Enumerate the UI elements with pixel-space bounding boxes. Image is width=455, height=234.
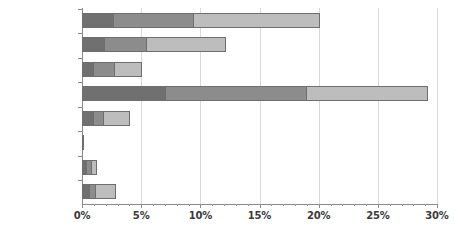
bar-segment-plants-3 (95, 184, 116, 199)
x-tick-minor (248, 204, 249, 206)
y-tick (78, 58, 82, 59)
bar-segment-molluscs-3 (91, 160, 98, 175)
bar-mammals (82, 13, 320, 28)
y-tick (78, 82, 82, 83)
x-tick-minor (118, 204, 119, 206)
x-tick-major (82, 204, 83, 208)
bar-molluscs (82, 160, 97, 175)
stacked-bar-chart: 0%5%10%15%20%25%30% MammalsBirdsReptiles… (0, 0, 455, 234)
bar-segment-mammals-2 (113, 13, 193, 28)
bar-reptiles (82, 62, 142, 77)
x-tick-minor (366, 204, 367, 206)
x-tick-minor (224, 204, 225, 206)
bar-segment-birds-2 (104, 37, 145, 52)
x-tick-major (141, 204, 142, 208)
x-tick-label: 10% (189, 210, 212, 221)
x-tick-label: 20% (307, 210, 330, 221)
x-tick-minor (295, 204, 296, 206)
x-tick-minor (236, 204, 237, 206)
bar-amphibians (82, 86, 428, 101)
y-tick (78, 107, 82, 108)
x-tick-minor (354, 204, 355, 206)
x-tick-minor (212, 204, 213, 206)
x-tick-minor (271, 204, 272, 206)
x-tick-label: 0% (74, 210, 91, 221)
y-tick (78, 33, 82, 34)
bar-segment-reptiles-3 (114, 62, 142, 77)
bar-segment-amphibians-2 (165, 86, 306, 101)
y-tick (78, 9, 82, 10)
bar-birds (82, 37, 226, 52)
x-tick-label: 25% (366, 210, 389, 221)
x-tick-minor (189, 204, 190, 206)
x-tick-minor (106, 204, 107, 206)
bar-segment-fishes-2 (93, 111, 104, 126)
x-tick-label: 15% (248, 210, 271, 221)
bar-segment-birds-1 (82, 37, 104, 52)
x-tick-label: 5% (133, 210, 150, 221)
bar-segment-fishes-3 (103, 111, 130, 126)
bar-segment-birds-3 (146, 37, 226, 52)
x-tick-minor (425, 204, 426, 206)
gridline (437, 8, 438, 204)
x-tick-minor (331, 204, 332, 206)
x-tick-major (200, 204, 201, 208)
bar-segment-mammals-1 (82, 13, 113, 28)
x-tick-minor (283, 204, 284, 206)
y-tick (78, 180, 82, 181)
x-tick-major (260, 204, 261, 208)
x-tick-minor (94, 204, 95, 206)
bar-insects (82, 135, 84, 150)
x-tick-minor (307, 204, 308, 206)
bar-segment-plants-1 (82, 184, 89, 199)
bar-segment-amphibians-1 (82, 86, 165, 101)
x-tick-major (437, 204, 438, 208)
gridline (319, 8, 320, 204)
gridline (378, 8, 379, 204)
bar-segment-fishes-1 (82, 111, 93, 126)
bar-segment-amphibians-3 (306, 86, 428, 101)
x-tick-minor (342, 204, 343, 206)
bar-segment-mammals-3 (193, 13, 320, 28)
x-tick-minor (153, 204, 154, 206)
x-tick-major (378, 204, 379, 208)
bar-segment-reptiles-2 (93, 62, 114, 77)
x-tick-minor (402, 204, 403, 206)
x-tick-minor (177, 204, 178, 206)
x-tick-minor (129, 204, 130, 206)
gridline (260, 8, 261, 204)
bar-segment-insects-1 (82, 135, 84, 150)
y-tick (78, 131, 82, 132)
x-tick-minor (413, 204, 414, 206)
x-tick-major (319, 204, 320, 208)
bar-segment-reptiles-1 (82, 62, 93, 77)
x-tick-label: 30% (425, 210, 448, 221)
x-tick-minor (165, 204, 166, 206)
bar-fishes (82, 111, 130, 126)
bar-plants (82, 184, 116, 199)
y-tick (78, 156, 82, 157)
x-tick-minor (390, 204, 391, 206)
